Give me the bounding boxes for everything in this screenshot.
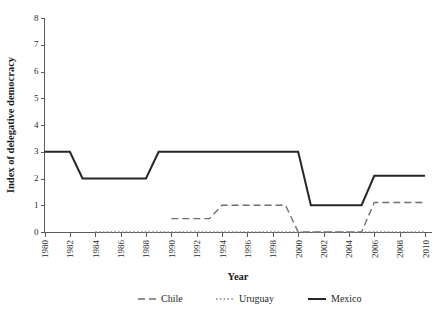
legend-label-uruguay: Uruguay <box>239 293 274 304</box>
x-tick-label: 1992 <box>192 240 202 258</box>
chart-figure: 012345678 198019821984198619881990199219… <box>0 0 437 318</box>
x-axis-title: Year <box>228 271 249 282</box>
legend-item-mexico: Mexico <box>308 293 362 304</box>
x-tick-label: 2004 <box>344 240 354 259</box>
x-tick-label: 2010 <box>421 240 431 259</box>
y-tick-label: 3 <box>34 146 39 156</box>
x-tick-label: 1980 <box>40 240 50 259</box>
x-tick-label: 1984 <box>91 240 101 259</box>
legend-item-chile: Chile <box>138 293 183 304</box>
y-axis-title: Index of delegative democracy <box>5 56 16 193</box>
x-tick-label: 2000 <box>294 240 304 259</box>
x-tick-group: 1980198219841986198819901992199419961998… <box>40 233 431 259</box>
x-tick-label: 2002 <box>319 240 329 258</box>
x-tick-label: 1990 <box>167 240 177 259</box>
y-tick-label: 2 <box>34 173 39 183</box>
line-chart: 012345678 198019821984198619881990199219… <box>0 0 437 318</box>
y-tick-label: 5 <box>34 93 39 103</box>
y-tick-label: 1 <box>34 200 39 210</box>
x-tick-label: 1986 <box>116 240 126 259</box>
x-axis: 1980198219841986198819901992199419961998… <box>40 233 432 259</box>
x-tick-label: 1996 <box>243 240 253 259</box>
data-series-group <box>45 152 426 232</box>
series-line-mexico <box>45 152 426 206</box>
y-axis: 012345678 <box>34 13 45 237</box>
y-tick-label: 4 <box>34 120 39 130</box>
y-tick-label: 0 <box>34 227 39 237</box>
x-tick-label: 1994 <box>218 240 228 259</box>
legend-label-mexico: Mexico <box>331 293 362 304</box>
y-tick-label: 8 <box>34 13 39 23</box>
x-tick-label: 1998 <box>268 240 278 259</box>
x-tick-label: 1988 <box>141 240 151 259</box>
y-tick-label: 6 <box>34 66 39 76</box>
legend-item-uruguay: Uruguay <box>216 293 274 304</box>
series-line-chile <box>171 203 425 232</box>
x-tick-label: 2006 <box>370 240 380 259</box>
x-tick-label: 1982 <box>65 240 75 258</box>
y-tick-group: 012345678 <box>34 13 45 237</box>
x-tick-label: 2008 <box>395 240 405 259</box>
chart-legend: ChileUruguayMexico <box>138 293 362 304</box>
legend-label-chile: Chile <box>161 293 183 304</box>
y-tick-label: 7 <box>34 39 39 49</box>
